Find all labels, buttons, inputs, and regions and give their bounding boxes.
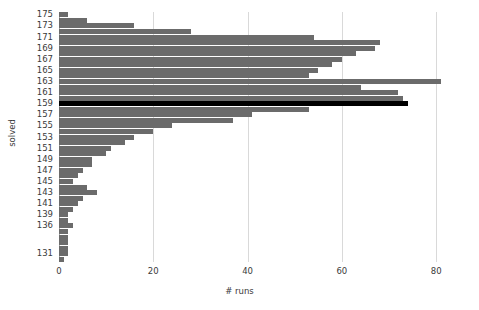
y-tick-label: 141 [37, 199, 53, 208]
y-tick-label: 173 [37, 21, 53, 30]
y-tick-label: 139 [37, 210, 53, 219]
y-tick-label: 171 [37, 33, 53, 42]
y-axis-title: solved [7, 103, 17, 163]
y-tick-label: 155 [37, 121, 53, 130]
bar-chart: 1751731711691671651631611591571551531511… [0, 0, 479, 310]
x-tick-label: 40 [242, 266, 253, 276]
x-tick-label: 60 [336, 266, 347, 276]
y-tick-label: 136 [37, 221, 53, 230]
y-tick-label: 163 [37, 77, 53, 86]
y-tick-label: 149 [37, 155, 53, 164]
x-axis-ticks: 020406080 [59, 266, 455, 280]
y-tick-label: 145 [37, 177, 53, 186]
y-tick-label: 167 [37, 55, 53, 64]
y-tick-label: 151 [37, 144, 53, 153]
y-tick-label: 153 [37, 133, 53, 142]
y-tick-label: 157 [37, 110, 53, 119]
x-tick-label: 80 [431, 266, 442, 276]
x-tick-label: 20 [148, 266, 159, 276]
y-tick-label: 165 [37, 66, 53, 75]
y-tick-label: 143 [37, 188, 53, 197]
x-tick-label: 0 [56, 266, 61, 276]
y-tick-label: 175 [37, 10, 53, 19]
x-axis-title: # runs [0, 286, 479, 296]
y-tick-label: 161 [37, 88, 53, 97]
y-tick-label: 131 [37, 249, 53, 258]
y-tick-label: 159 [37, 99, 53, 108]
y-tick-label: 147 [37, 166, 53, 175]
y-axis-ticks: 1751731711691671651631611591571551531511… [0, 12, 479, 262]
y-tick-label: 169 [37, 44, 53, 53]
